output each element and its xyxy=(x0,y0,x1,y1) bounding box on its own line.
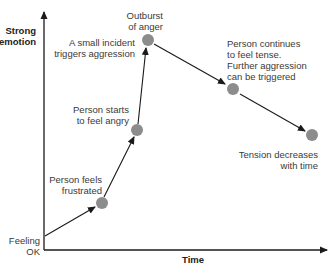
incident-label: A small incident triggers aggression xyxy=(54,37,135,59)
decrease-label: Tension decreases with time xyxy=(239,149,318,171)
incident-label-line2: triggers aggression xyxy=(54,48,135,59)
arrow-frustrated-to-angry xyxy=(104,137,134,197)
origin-label: Feeling OK xyxy=(9,235,40,257)
y-axis-label-line1: Strong xyxy=(0,25,36,36)
angry-label-line2: to feel angry xyxy=(73,115,129,126)
outburst-label-line2: of anger xyxy=(127,21,163,32)
tense-label-line3: Further aggression xyxy=(227,60,307,71)
arrow-outburst-to-tense xyxy=(154,44,225,84)
y-axis-label: Strong emotion xyxy=(0,25,36,47)
arrow-ok-to-frustrated xyxy=(45,207,95,236)
frustrated-label-line2: frustrated xyxy=(49,185,102,196)
incident-label-line1: A small incident xyxy=(54,37,135,48)
tense-label: Person continues to feel tense. Further … xyxy=(227,38,307,82)
decrease-label-line1: Tension decreases xyxy=(239,149,318,160)
node-angry xyxy=(131,124,143,136)
outburst-label: Outburst of anger xyxy=(127,10,163,32)
angry-label-line1: Person starts xyxy=(73,104,129,115)
x-axis-label-text: Time xyxy=(182,254,204,265)
frustrated-label: Person feels frustrated xyxy=(49,174,102,196)
origin-label-line2: OK xyxy=(9,246,40,257)
tense-label-line2: to feel tense. xyxy=(227,49,307,60)
node-frustrated xyxy=(96,197,108,209)
node-outburst xyxy=(142,34,154,46)
outburst-label-line1: Outburst xyxy=(127,10,163,21)
origin-label-line1: Feeling xyxy=(9,235,40,246)
decrease-label-line2: with time xyxy=(239,160,318,171)
angry-label: Person starts to feel angry xyxy=(73,104,129,126)
node-tense xyxy=(227,83,239,95)
arrow-tense-to-decrease xyxy=(240,94,305,131)
tense-label-line1: Person continues xyxy=(227,38,307,49)
arrow-angry-to-outburst xyxy=(138,48,146,124)
y-axis-label-line2: emotion xyxy=(0,36,36,47)
tense-label-line4: can be triggered xyxy=(227,71,307,82)
x-axis-label: Time xyxy=(182,254,204,265)
frustrated-label-line1: Person feels xyxy=(49,174,102,185)
node-decrease xyxy=(306,129,318,141)
